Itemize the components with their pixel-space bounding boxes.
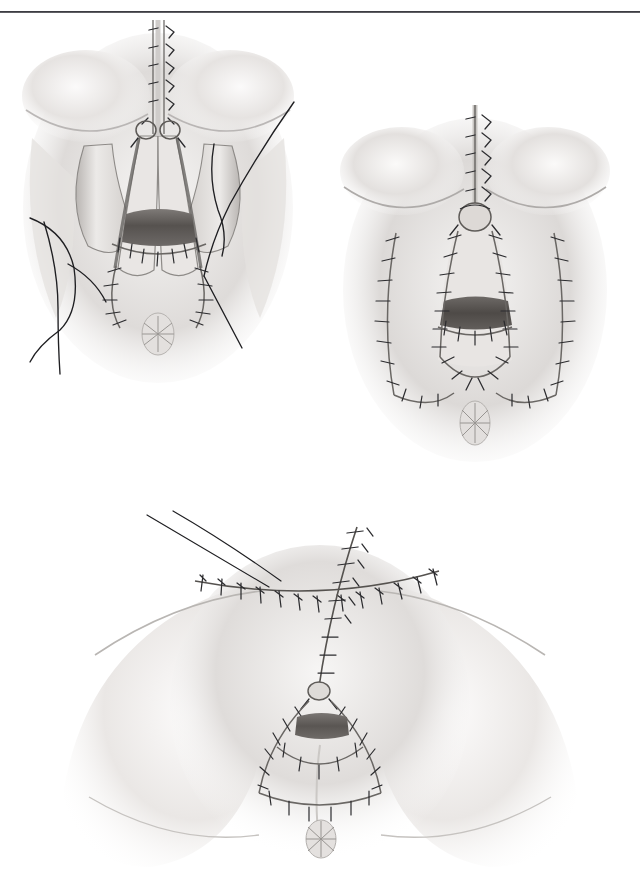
introital-opening xyxy=(295,713,349,739)
anus xyxy=(460,401,490,445)
page-header: .. xyxy=(0,0,640,14)
introital-opening xyxy=(440,297,512,330)
atlas-page: .. xyxy=(0,0,640,874)
figure-upper-left xyxy=(8,18,308,398)
header-rule xyxy=(0,11,640,13)
right-mons-mass xyxy=(486,127,610,215)
left-mons-mass xyxy=(340,127,464,215)
header-clipped-text: .. xyxy=(556,0,562,2)
perineal-mass xyxy=(170,545,470,865)
introital-opening xyxy=(122,209,196,246)
left-mons-mass xyxy=(22,50,150,142)
figure-upper-right xyxy=(330,105,620,475)
anus xyxy=(142,313,174,355)
figure-lower xyxy=(55,495,585,874)
anus xyxy=(306,820,336,858)
right-mons-mass xyxy=(166,50,294,142)
